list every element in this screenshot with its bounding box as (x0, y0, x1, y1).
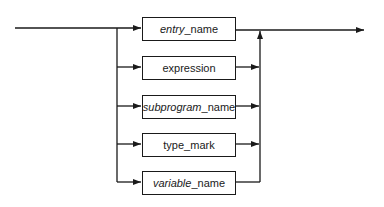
box-label-italic: subprogram (143, 101, 202, 113)
box-expression: expression (142, 56, 236, 80)
box-subprogram-name: subprogram_name (142, 95, 236, 119)
box-label: expression (162, 62, 215, 74)
box-label: _name (184, 23, 218, 35)
box-label-italic: entry (160, 23, 184, 35)
box-label: _name (202, 101, 236, 113)
box-label: type_mark (163, 139, 214, 151)
box-label: _name (191, 177, 225, 189)
box-variable-name: variable_name (142, 171, 236, 195)
box-label-italic: variable (153, 177, 192, 189)
box-entry-name: entry_name (142, 17, 236, 41)
box-type-mark: type_mark (142, 133, 236, 157)
